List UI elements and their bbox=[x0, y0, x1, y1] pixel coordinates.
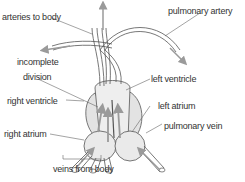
label-left-atrium: left atrium bbox=[158, 101, 195, 111]
label-veins-from-body: veins from body bbox=[53, 164, 114, 174]
label-arteries-to-body: arteries to body bbox=[2, 12, 61, 22]
label-right-ventricle: right ventricle bbox=[7, 96, 58, 106]
label-right-atrium: right atrium bbox=[4, 129, 47, 139]
label-left-ventricle: left ventricle bbox=[151, 74, 196, 84]
heart-diagram bbox=[0, 0, 245, 182]
label-incomplete-division-line2: division bbox=[23, 72, 51, 82]
label-incomplete-division-line1: incomplete bbox=[17, 57, 59, 67]
label-pulmonary-artery: pulmonary artery bbox=[168, 6, 232, 16]
label-pulmonary-vein: pulmonary vein bbox=[164, 121, 222, 131]
right-atrium-shape bbox=[84, 131, 116, 161]
